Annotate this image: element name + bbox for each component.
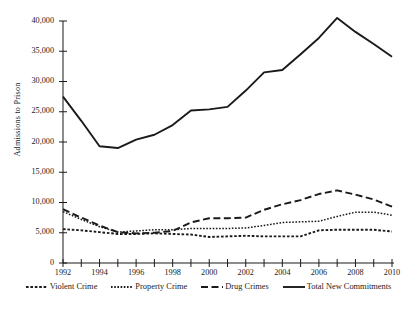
legend-swatch-icon xyxy=(283,283,305,291)
x-axis-tick-label: 1992 xyxy=(43,268,83,277)
y-axis-tick-label: 0 xyxy=(10,258,54,267)
legend-swatch-icon xyxy=(111,283,133,291)
chart-svg xyxy=(0,0,417,272)
legend-item-violent-crime[interactable]: Violent Crime xyxy=(26,282,98,291)
x-axis-tick-label: 1994 xyxy=(80,268,120,277)
legend-label: Total New Commitments xyxy=(307,282,392,291)
legend-swatch-icon xyxy=(26,283,48,291)
legend-item-property-crime[interactable]: Property Crime xyxy=(111,282,187,291)
legend-item-drug-crimes[interactable]: Drug Crimes xyxy=(201,282,269,291)
legend-item-total-new-commitments[interactable]: Total New Commitments xyxy=(283,282,392,291)
legend-label: Property Crime xyxy=(135,282,187,291)
series-line-total-new-commitments xyxy=(63,18,392,148)
chart-figure: Admissions to Prison 05,00010,00015,0002… xyxy=(0,0,417,312)
y-axis-tick-label: 40,000 xyxy=(10,16,54,25)
y-axis-tick-label: 35,000 xyxy=(10,46,54,55)
x-axis-tick-label: 2004 xyxy=(262,268,302,277)
legend-label: Violent Crime xyxy=(50,282,98,291)
plot-area: Admissions to Prison 05,00010,00015,0002… xyxy=(0,0,417,272)
series-line-drug-crimes xyxy=(63,190,392,233)
legend-label: Drug Crimes xyxy=(225,282,269,291)
y-axis-tick-label: 25,000 xyxy=(10,106,54,115)
x-axis-tick-label: 1998 xyxy=(153,268,193,277)
y-axis-tick-label: 30,000 xyxy=(10,76,54,85)
y-axis-tick-label: 15,000 xyxy=(10,167,54,176)
y-axis-tick-label: 5,000 xyxy=(10,227,54,236)
y-axis-tick-label: 10,000 xyxy=(10,197,54,206)
x-axis-tick-label: 2008 xyxy=(335,268,375,277)
x-axis-tick-label: 2000 xyxy=(189,268,229,277)
chart-legend: Violent CrimeProperty CrimeDrug CrimesTo… xyxy=(0,282,417,291)
legend-swatch-icon xyxy=(201,283,223,291)
x-axis-tick-label: 2002 xyxy=(226,268,266,277)
y-axis-tick-label: 20,000 xyxy=(10,137,54,146)
x-axis-tick-label: 2006 xyxy=(299,268,339,277)
series-line-property-crime xyxy=(63,212,392,233)
x-axis-tick-label: 1996 xyxy=(116,268,156,277)
data-series-layer xyxy=(63,18,392,237)
x-axis-tick-label: 2010 xyxy=(372,268,412,277)
